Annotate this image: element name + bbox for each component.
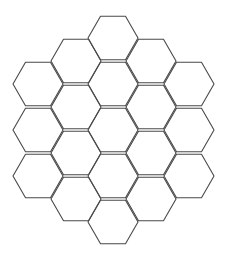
- hexagon-grid: [0, 0, 229, 259]
